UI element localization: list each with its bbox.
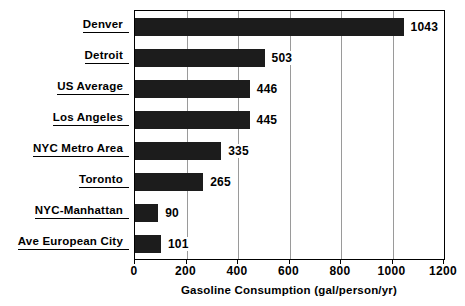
bar [135, 142, 221, 160]
bar-row: 335 [135, 135, 444, 166]
bar-row: 446 [135, 73, 444, 104]
category-label: Denver [83, 18, 129, 33]
category-label: Los Angeles [53, 111, 129, 126]
category-label: Toronto [79, 173, 129, 188]
bar [135, 80, 250, 98]
x-tick-label: 1000 [378, 264, 406, 278]
x-tick-label: 800 [330, 264, 351, 278]
bar-value-label: 265 [209, 175, 232, 189]
category-label-row: US Average [0, 72, 129, 103]
category-axis-labels: DenverDetroitUS AverageLos AngelesNYC Me… [0, 10, 129, 258]
bar-value-label: 503 [271, 51, 294, 65]
x-tick-label: 200 [175, 264, 196, 278]
bar [135, 204, 158, 222]
bar-row: 445 [135, 104, 444, 135]
bar-row: 101 [135, 228, 444, 259]
bar-row: 265 [135, 166, 444, 197]
bar [135, 173, 203, 191]
x-tick-label: 600 [278, 264, 299, 278]
bar-value-label: 1043 [410, 20, 440, 34]
category-label: Detroit [85, 49, 129, 64]
category-label-row: NYC-Manhattan [0, 196, 129, 227]
category-label-row: Toronto [0, 165, 129, 196]
bar-row: 90 [135, 197, 444, 228]
x-tick-label: 0 [131, 264, 138, 278]
category-label-row: Los Angeles [0, 103, 129, 134]
bar-row: 1043 [135, 11, 444, 42]
bar-value-label: 335 [227, 144, 250, 158]
bar-value-label: 90 [164, 206, 180, 220]
category-label: NYC-Manhattan [35, 204, 129, 219]
bar-value-label: 446 [256, 82, 279, 96]
category-label: US Average [57, 80, 129, 95]
bars-layer: 104350344644533526590101 [135, 11, 444, 259]
bar-value-label: 445 [256, 113, 279, 127]
bar-row: 503 [135, 42, 444, 73]
category-label-row: Denver [0, 10, 129, 41]
x-tick-label: 400 [227, 264, 248, 278]
category-label: NYC Metro Area [33, 142, 129, 157]
bar [135, 49, 265, 67]
x-tick-label: 1200 [429, 264, 457, 278]
category-label: Ave European City [18, 235, 129, 250]
bar-chart: DenverDetroitUS AverageLos AngelesNYC Me… [0, 0, 465, 306]
category-label-row: Ave European City [0, 227, 129, 258]
x-axis-tick-labels: 020040060080010001200 [134, 264, 444, 280]
x-axis-title: Gasoline Consumption (gal/person/yr) [134, 284, 444, 296]
bar [135, 18, 404, 36]
category-label-row: Detroit [0, 41, 129, 72]
category-label-row: NYC Metro Area [0, 134, 129, 165]
bar [135, 235, 161, 253]
bar [135, 111, 250, 129]
plot-area: 104350344644533526590101 [134, 10, 445, 260]
bar-value-label: 101 [167, 237, 190, 251]
